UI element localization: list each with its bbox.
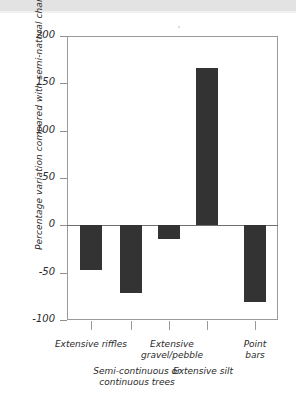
y-axis-tick: 0 [0,225,67,226]
y-axis-tick: 100 [0,131,67,132]
x-axis-label: Extensive gravel/pebble [141,339,203,361]
y-axis-tick-mark [60,83,67,84]
plot-area [67,36,278,320]
x-axis-label: Semi-continuous or continuous trees [93,366,180,388]
bar-chart-figure: Percentage variation compared with semi-… [0,0,296,402]
bar [244,225,266,302]
x-axis-tick-mark [131,321,132,330]
y-axis-tick-label: 150 [36,76,55,87]
x-axis-tick-mark [207,321,208,330]
y-axis-tick: 150 [0,83,67,84]
y-axis-tick-label: 50 [42,171,55,182]
y-axis-tick-label: 0 [49,218,55,229]
bar [80,225,102,269]
x-axis-label: Extensive silt [173,366,233,377]
y-axis-tick: -50 [0,273,67,274]
y-axis-tick-mark [60,178,67,179]
bar [120,225,142,293]
bar [158,225,180,238]
y-axis-tick: 200 [0,36,67,37]
x-axis-label: Point bars [235,339,276,361]
y-axis-tick-mark [60,131,67,132]
y-axis-tick-mark [60,36,67,37]
y-axis-tick-label: 200 [36,29,55,40]
y-axis-tick: 50 [0,178,67,179]
y-axis-tick-mark [60,273,67,274]
x-axis-label: Extensive riffles [55,339,127,350]
y-axis-tick-label: 100 [36,124,55,135]
y-axis-tick-label: -100 [32,313,55,324]
bar [196,68,218,225]
x-axis-tick-mark [169,321,170,330]
y-axis-tick: -100 [0,320,67,321]
x-axis-tick-mark [91,321,92,330]
y-axis-tick-label: -50 [39,266,55,277]
y-axis-tick-mark [60,225,67,226]
x-axis-tick-mark [255,321,256,330]
y-axis-tick-mark [60,320,67,321]
